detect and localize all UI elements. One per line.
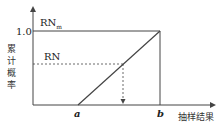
x-axis-label: 抽样结果 — [178, 111, 214, 122]
a-label: a — [74, 108, 80, 119]
y-tick-1: 1.0 — [16, 26, 32, 37]
y-axis-label-2: 计 — [7, 55, 16, 66]
down-arrow-icon — [121, 99, 126, 104]
cdf-line — [78, 31, 160, 105]
y-axis-label-4: 率 — [7, 79, 16, 90]
b-label: b — [157, 108, 164, 119]
y-axis-label-3: 概 — [7, 67, 16, 78]
rn-max-label: RNm — [40, 17, 62, 30]
y-axis-label-1: 累 — [7, 44, 16, 54]
rn-label: RN — [44, 51, 61, 62]
cumulative-probability-diagram: 1.0 RNm RN a b 累 计 概 率 抽样结果 — [0, 0, 220, 129]
